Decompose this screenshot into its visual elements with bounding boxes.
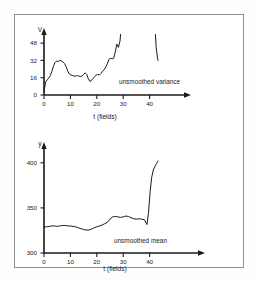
data-curve-unsmoothed-mean [44, 161, 158, 230]
x-axis-title-variance: t (fields) [93, 113, 116, 121]
y-axis-title-mean: y [38, 140, 42, 148]
x-tick-label-mean-30: 30 [120, 258, 127, 265]
x-tick-label-variance-20: 20 [93, 100, 100, 107]
figure-page: 0 16 32 48 0 10 20 30 40 V t (fields) un… [0, 0, 258, 284]
data-curve-variance-spike [155, 34, 158, 60]
x-axis-arrow-variance [184, 92, 191, 97]
annotation-unsmoothed-mean: unsmoothed mean [114, 237, 167, 244]
x-axis-title-mean-wrap: t (fields) [15, 265, 245, 272]
y-tick-label-variance-16: 16 [30, 74, 37, 81]
x-axis-arrow-mean [198, 250, 205, 255]
figure-border: 0 16 32 48 0 10 20 30 40 V t (fields) un… [14, 14, 244, 268]
y-tick-label-mean-350: 350 [27, 204, 38, 211]
y-tick-label-variance-48: 48 [30, 39, 37, 46]
x-tick-label-mean-10: 10 [67, 258, 74, 265]
annotation-unsmoothed-variance: unsmoothed variance [119, 78, 181, 85]
x-axis-title-mean: t (fields) [0, 265, 245, 272]
y-tick-label-variance-0: 0 [34, 91, 38, 98]
y-tick-label-variance-32: 32 [30, 57, 37, 64]
x-tick-label-variance-0: 0 [42, 100, 46, 107]
y-tick-label-mean-300: 300 [27, 249, 38, 256]
x-tick-label-variance-40: 40 [146, 100, 153, 107]
y-tick-label-mean-400: 400 [27, 159, 38, 166]
x-tick-label-mean-0: 0 [42, 258, 46, 265]
x-tick-label-variance-30: 30 [120, 100, 127, 107]
chart-unsmoothed-mean: 300 350 400 0 10 20 30 40 y unsmoothed m… [15, 127, 245, 269]
data-curve-unsmoothed-variance [44, 34, 121, 91]
y-axis-arrow-mean [41, 142, 46, 149]
x-tick-label-mean-20: 20 [93, 258, 100, 265]
x-tick-label-mean-40: 40 [146, 258, 153, 265]
x-tick-label-variance-10: 10 [67, 100, 74, 107]
chart-unsmoothed-variance: 0 16 32 48 0 10 20 30 40 V t (fields) un… [15, 15, 245, 135]
y-axis-title-variance: V [38, 26, 43, 33]
